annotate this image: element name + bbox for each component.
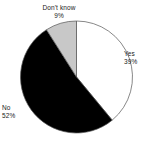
pie-label-yes-percent: 39% bbox=[124, 58, 150, 66]
pie-label-no: No 52% bbox=[2, 104, 28, 120]
pie-label-no-name: No bbox=[2, 104, 28, 112]
pie-slices bbox=[21, 21, 133, 133]
pie-label-dont-know: Don't know 9% bbox=[28, 4, 90, 20]
pie-label-dont-know-percent: 9% bbox=[28, 12, 90, 20]
pie-chart-svg bbox=[0, 0, 152, 143]
pie-label-no-percent: 52% bbox=[2, 112, 28, 120]
pie-chart: Don't know 9% Yes 39% No 52% bbox=[0, 0, 152, 143]
pie-label-yes-name: Yes bbox=[124, 50, 150, 58]
pie-label-yes: Yes 39% bbox=[124, 50, 150, 66]
pie-label-dont-know-name: Don't know bbox=[28, 4, 90, 12]
